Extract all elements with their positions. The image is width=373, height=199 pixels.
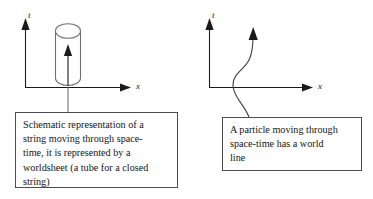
x-axis-label-right: x [318, 82, 322, 91]
x-axis-arrowhead-right [302, 83, 313, 91]
spacetime-diagram-figure: t x t x Schematic representation of a st… [0, 0, 373, 199]
x-axis-label-left: x [136, 82, 140, 91]
x-axis-arrowhead-left [120, 83, 131, 91]
caption-text-string-worldsheet: Schematic representation of a string mov… [23, 118, 171, 188]
t-axis-label-right: t [212, 11, 215, 20]
t-axis-label-left: t [28, 11, 31, 20]
caption-text-particle-worldline: A particle moving through space-time has… [230, 123, 355, 166]
left-panel-group [21, 18, 131, 112]
worldline-arrowhead [249, 27, 258, 40]
worldline-curve [233, 37, 253, 117]
caption-box-particle-worldline: A particle moving through space-time has… [222, 117, 362, 171]
worldsheet-tube-top-ellipse [56, 24, 81, 39]
right-panel-group [205, 18, 313, 117]
caption-box-string-worldsheet: Schematic representation of a string mov… [15, 112, 178, 188]
